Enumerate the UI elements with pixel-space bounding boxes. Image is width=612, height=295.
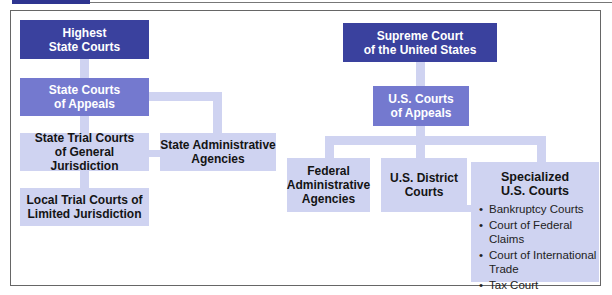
connector xyxy=(537,136,546,162)
connector xyxy=(148,92,222,101)
box-label: Highest State Courts xyxy=(49,26,120,54)
list-item: Court of Federal Claims xyxy=(479,218,599,246)
state-courts-of-appeals-box: State Courts of Appeals xyxy=(20,78,149,116)
box-label: State Administrative Agencies xyxy=(160,138,276,166)
box-title: Specialized U.S. Courts xyxy=(501,170,569,198)
connector xyxy=(80,59,89,79)
connector xyxy=(416,61,425,86)
federal-administrative-agencies-box: Federal Administrative Agencies xyxy=(287,158,370,212)
specialized-courts-list: Bankruptcy Courts Court of Federal Claim… xyxy=(471,202,599,294)
state-trial-courts-box: State Trial Courts of General Jurisdicti… xyxy=(20,133,149,171)
header-rule xyxy=(90,2,612,3)
connector xyxy=(148,150,160,157)
box-label: Local Trial Courts of Limited Jurisdicti… xyxy=(26,193,142,221)
us-district-courts-box: U.S. District Courts xyxy=(381,158,467,212)
highest-state-courts-box: Highest State Courts xyxy=(20,20,149,59)
supreme-court-box: Supreme Court of the United States xyxy=(343,23,497,62)
local-trial-courts-box: Local Trial Courts of Limited Jurisdicti… xyxy=(20,188,149,226)
connector xyxy=(80,170,89,190)
box-label: U.S. Courts of Appeals xyxy=(388,92,453,120)
box-label: Federal Administrative Agencies xyxy=(287,164,370,206)
list-item: Court of International Trade xyxy=(479,248,599,276)
us-courts-of-appeals-box: U.S. Courts of Appeals xyxy=(373,86,469,126)
connector xyxy=(213,92,222,134)
connector xyxy=(325,136,546,145)
state-administrative-agencies-box: State Administrative Agencies xyxy=(160,133,276,171)
box-label: U.S. District Courts xyxy=(390,171,458,199)
specialized-us-courts-box: Specialized U.S. Courts Bankruptcy Court… xyxy=(471,162,599,282)
connector xyxy=(325,136,334,158)
box-label: Supreme Court of the United States xyxy=(364,29,477,57)
header-tab xyxy=(12,0,90,4)
box-label: State Trial Courts of General Jurisdicti… xyxy=(20,131,149,173)
connector xyxy=(416,136,425,158)
list-item: Tax Court xyxy=(479,278,599,292)
box-label: State Courts of Appeals xyxy=(49,83,120,111)
list-item: Bankruptcy Courts xyxy=(479,202,599,216)
